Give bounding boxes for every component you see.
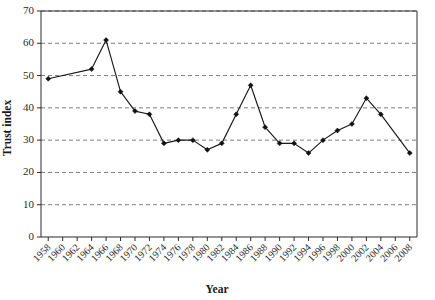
data-point-marker xyxy=(46,76,51,81)
x-tick-labels: 1958196019621964196619681970197219741976… xyxy=(31,242,414,264)
y-tick-label: 60 xyxy=(23,36,35,48)
x-tick-label: 2008 xyxy=(392,242,414,264)
data-point-marker xyxy=(104,38,109,43)
axis-frame xyxy=(41,11,417,237)
data-point-marker xyxy=(248,83,253,88)
data-point-marker xyxy=(147,112,152,117)
data-point-markers xyxy=(46,38,413,156)
y-tick-label: 0 xyxy=(29,230,35,242)
y-axis-title: Trust index xyxy=(1,100,13,157)
data-point-marker xyxy=(219,141,224,146)
chart-page: 010203040506070 195819601962196419661968… xyxy=(0,0,435,300)
data-point-marker xyxy=(176,138,181,143)
y-tick-label: 40 xyxy=(23,101,35,113)
data-series-trust-index xyxy=(48,40,410,153)
trust-index-line xyxy=(48,40,410,153)
chart-svg: 010203040506070 195819601962196419661968… xyxy=(0,0,435,300)
data-point-marker xyxy=(349,122,354,127)
data-point-marker xyxy=(234,112,239,117)
data-point-marker xyxy=(161,141,166,146)
y-tick-label: 30 xyxy=(23,133,35,145)
y-tick-label: 10 xyxy=(23,198,35,210)
x-axis-title: Year xyxy=(206,283,229,295)
y-tick-labels: 010203040506070 xyxy=(23,4,35,242)
x-tick-marks xyxy=(48,237,410,241)
y-tick-marks xyxy=(37,11,41,237)
y-tick-label: 50 xyxy=(23,69,35,81)
y-tick-label: 70 xyxy=(23,4,35,16)
line-chart: 010203040506070 195819601962196419661968… xyxy=(0,0,435,300)
data-point-marker xyxy=(89,67,94,72)
y-tick-label: 20 xyxy=(23,165,35,177)
